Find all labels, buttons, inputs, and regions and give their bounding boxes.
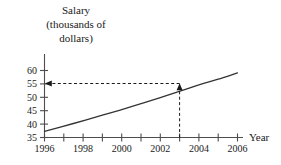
x-axis-title: Year [249, 131, 270, 143]
y-tick-label-55: 55 [27, 78, 37, 89]
guide-arrowhead-up [177, 83, 183, 90]
x-tick-label-2004: 2004 [189, 143, 209, 154]
chart-title: Salary (thousands of dollars) [46, 4, 106, 45]
y-tick-label-40: 40 [27, 119, 37, 130]
y-tick-label-45: 45 [27, 105, 37, 116]
x-tick-label-1998: 1998 [73, 143, 93, 154]
x-tick-label-2006: 2006 [228, 143, 248, 154]
x-tick-label-2002: 2002 [150, 143, 170, 154]
salary-curve [45, 73, 238, 131]
x-axis-tick-labels: 1996 1998 2000 2002 2004 2006 [35, 143, 248, 154]
guide-arrowhead-left [45, 81, 52, 87]
chart-title-line-1: Salary [62, 4, 91, 16]
chart-title-line-2: (thousands of [46, 18, 106, 31]
y-axis-tick-labels: 35 40 45 50 55 60 [27, 65, 37, 143]
x-tick-label-2000: 2000 [112, 143, 132, 154]
y-tick-label-60: 60 [27, 65, 37, 76]
x-tick-label-1996: 1996 [35, 143, 55, 154]
chart-canvas: Salary (thousands of dollars) 35 40 45 5… [0, 0, 281, 165]
y-tick-label-50: 50 [27, 92, 37, 103]
chart-title-line-3: dollars) [59, 32, 93, 45]
y-tick-label-35: 35 [27, 132, 37, 143]
salary-vs-year-chart: Salary (thousands of dollars) 35 40 45 5… [0, 0, 281, 165]
